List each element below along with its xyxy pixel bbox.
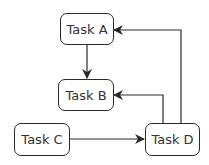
- node-task-a: Task A: [60, 13, 114, 45]
- node-task-b: Task B: [58, 79, 114, 111]
- node-task-d: Task D: [145, 123, 200, 156]
- node-task-b-label: Task B: [65, 88, 106, 103]
- node-task-c: Task C: [14, 123, 70, 156]
- node-task-a-label: Task A: [66, 22, 107, 37]
- edge-d-to-a: [114, 30, 181, 123]
- node-task-d-label: Task D: [151, 132, 193, 147]
- edge-d-to-b: [114, 95, 163, 123]
- node-task-c-label: Task C: [21, 132, 62, 147]
